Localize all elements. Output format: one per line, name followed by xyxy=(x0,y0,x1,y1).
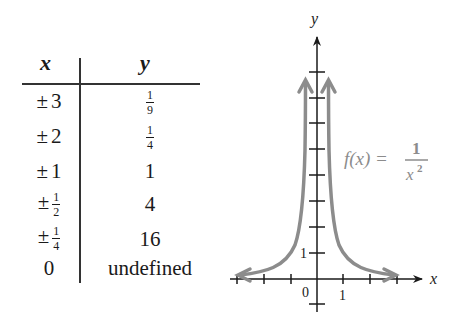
function-exponent: 2 xyxy=(417,162,423,174)
x-axis-label: x xyxy=(429,270,437,287)
function-denominator: x xyxy=(405,165,414,184)
y-axis xyxy=(309,37,325,312)
x-tick-label-1: 1 xyxy=(339,288,346,303)
y-axis-label: y xyxy=(309,10,319,28)
origin-label: 0 xyxy=(302,285,309,300)
y-tick-label-1: 1 xyxy=(300,246,307,261)
curve-left-branch xyxy=(240,82,306,275)
function-lhs: f(x) = xyxy=(344,148,388,170)
function-graph: y x 0 1 1 f(x) = 1 x 2 xyxy=(0,0,455,323)
function-label: f(x) = 1 x 2 xyxy=(344,139,428,184)
curve-right-branch xyxy=(329,82,395,275)
function-numerator: 1 xyxy=(412,139,421,158)
